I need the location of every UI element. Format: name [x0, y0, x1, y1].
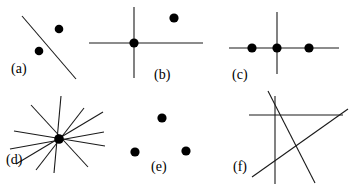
point-panel-a-0 [35, 47, 44, 56]
point-panel-b-1 [169, 13, 178, 22]
point-panel-e-2 [181, 146, 190, 155]
figure-canvas: (a) (b) (c) (d) (e) (f) [0, 0, 359, 186]
point-panel-c-2 [304, 43, 313, 52]
line-panel-a-0 [22, 16, 76, 79]
point-panel-d-0 [54, 134, 64, 144]
point-panel-c-0 [247, 43, 256, 52]
point-panel-a-1 [55, 25, 64, 34]
panel-label-e: (e) [151, 160, 167, 174]
panel-label-a: (a) [11, 62, 27, 76]
point-panel-e-1 [130, 147, 139, 156]
line-art-layer [0, 0, 359, 186]
dots-group [35, 13, 314, 156]
panel-label-f: (f) [233, 160, 247, 174]
lines-group [10, 7, 348, 184]
panel-label-b: (b) [154, 68, 170, 82]
line-panel-f-3 [252, 109, 348, 177]
point-panel-e-0 [157, 113, 166, 122]
panel-label-c: (c) [232, 68, 248, 82]
panel-label-d: (d) [6, 153, 22, 167]
point-panel-b-0 [129, 38, 138, 47]
point-panel-c-1 [272, 43, 281, 52]
